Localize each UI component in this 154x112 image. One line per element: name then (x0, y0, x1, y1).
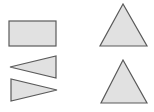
rectangle-shape (9, 21, 56, 46)
upright-triangle-bottom-shape (101, 60, 147, 103)
upright-triangle-top-shape (100, 4, 147, 46)
shapes-diagram (0, 0, 154, 112)
left-pointing-triangle-shape (10, 56, 56, 78)
right-pointing-triangle-shape (11, 79, 57, 101)
